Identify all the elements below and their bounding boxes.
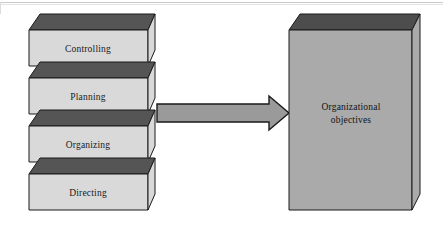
goal-top-face — [289, 14, 420, 30]
slab-label-directing: Directing — [69, 188, 107, 198]
goal-side-face — [412, 14, 420, 210]
organizational-objectives-box[interactable]: Organizational objectives — [289, 14, 420, 210]
slab-label-organizing: Organizing — [66, 140, 111, 150]
diagram-canvas: Controlling Planning Organizing Directin… — [0, 0, 443, 226]
slab-top-face — [29, 110, 155, 126]
goal-label-line2: objectives — [331, 115, 372, 125]
slab-controlling[interactable]: Controlling — [29, 14, 155, 66]
flow-arrow[interactable] — [157, 96, 289, 130]
slab-planning[interactable]: Planning — [29, 62, 155, 114]
slab-label-planning: Planning — [70, 92, 105, 102]
slab-organizing[interactable]: Organizing — [29, 110, 155, 162]
arrow-shape — [157, 96, 289, 130]
slab-directing[interactable]: Directing — [29, 158, 155, 210]
goal-label-line1: Organizational — [321, 102, 380, 112]
slab-top-face — [29, 14, 155, 30]
slab-label-controlling: Controlling — [65, 44, 111, 54]
diagram-svg: Controlling Planning Organizing Directin… — [0, 0, 443, 226]
slab-top-face — [29, 62, 155, 78]
slab-top-face — [29, 158, 155, 174]
